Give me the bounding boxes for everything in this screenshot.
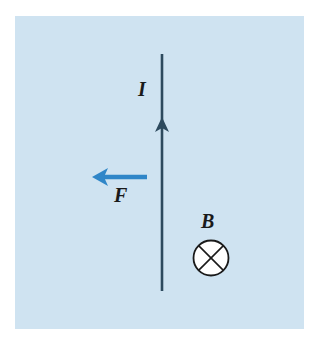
field-into-page-icon bbox=[194, 241, 229, 276]
current-label: I bbox=[138, 79, 146, 99]
diagram-canvas bbox=[0, 0, 320, 354]
wire bbox=[155, 54, 169, 291]
field-label: B bbox=[201, 211, 214, 231]
force-label: F bbox=[114, 185, 127, 205]
